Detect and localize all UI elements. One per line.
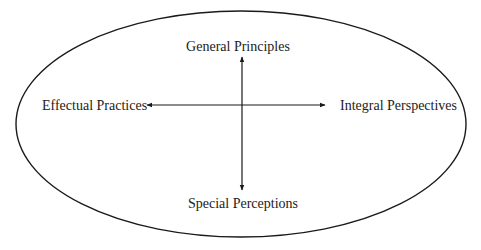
- label-special-perceptions: Special Perceptions: [188, 197, 298, 211]
- diagram-canvas: [0, 0, 481, 250]
- label-effectual-practices: Effectual Practices: [42, 99, 147, 113]
- label-general-principles: General Principles: [186, 40, 290, 54]
- label-integral-perspectives: Integral Perspectives: [340, 99, 457, 113]
